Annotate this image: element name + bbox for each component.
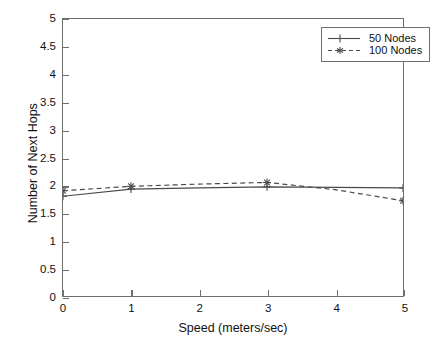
y-tick-label: 3 (50, 125, 56, 137)
legend-label: 100 Nodes (369, 45, 422, 56)
y-tick-label: 4.5 (40, 41, 56, 53)
x-tick-label: 4 (333, 303, 339, 315)
x-tick-label: 3 (265, 303, 271, 315)
data-point-marker (63, 192, 67, 200)
series-100-nodes (63, 178, 403, 204)
x-tick-mark (404, 290, 405, 296)
y-tick-mark (63, 298, 69, 299)
x-tick-label: 5 (402, 303, 408, 315)
series-50-nodes (63, 183, 403, 200)
legend-item-50-nodes: 50 Nodes (327, 33, 422, 44)
data-point-marker (399, 197, 403, 205)
x-axis-label: Speed (meters/sec) (62, 322, 404, 335)
data-point-marker (63, 187, 67, 195)
series-line (63, 187, 403, 196)
data-point-marker (399, 184, 403, 192)
y-tick-label: 1 (50, 236, 56, 248)
x-tick-label: 1 (128, 303, 134, 315)
legend-item-100-nodes: 100 Nodes (327, 45, 422, 56)
legend-swatch-solid-plus (327, 33, 361, 44)
y-tick-label: 4 (50, 69, 56, 81)
y-tick-label: 0.5 (40, 264, 56, 276)
data-point-marker (127, 182, 135, 190)
x-tick-label: 0 (60, 303, 66, 315)
y-axis-label: Number of Next Hops (27, 68, 40, 258)
y-tick-label: 3.5 (40, 97, 56, 109)
legend-swatch-dashed-star (327, 45, 361, 56)
plot-area: 00.511.522.533.544.55 012345 50 Nodes (62, 18, 404, 297)
y-tick-label: 0 (50, 292, 56, 304)
y-tick-label: 2.5 (40, 153, 56, 165)
chart-legend: 50 Nodes 100 Nodes (321, 27, 430, 62)
x-tick-label: 2 (197, 303, 203, 315)
y-tick-label: 2 (50, 181, 56, 193)
y-tick-label: 1.5 (40, 209, 56, 221)
y-tick-label: 5 (50, 13, 56, 25)
series-line (63, 182, 403, 200)
legend-label: 50 Nodes (369, 33, 416, 44)
data-point-marker (263, 178, 271, 186)
